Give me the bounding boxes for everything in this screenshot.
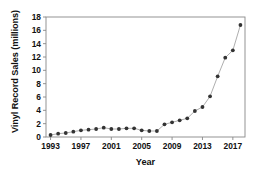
data-point — [185, 116, 189, 120]
plot-area: 024681012141618 199319972001200520092013… — [0, 0, 262, 177]
x-tick-label: 2005 — [132, 141, 151, 151]
data-point — [49, 133, 53, 137]
data-point — [140, 128, 144, 132]
data-point — [117, 127, 121, 131]
x-tick-label: 1997 — [72, 141, 91, 151]
y-tick-label: 6 — [36, 92, 41, 102]
data-point — [79, 128, 83, 132]
x-axis-ticks: 1993199720012005200920132017 — [41, 137, 242, 151]
data-point — [109, 127, 113, 131]
data-point — [147, 129, 151, 133]
data-point — [170, 120, 174, 124]
data-point — [87, 128, 91, 132]
y-tick-label: 8 — [36, 79, 41, 89]
data-point — [201, 105, 205, 109]
data-point — [239, 23, 243, 27]
y-tick-label: 14 — [32, 39, 42, 49]
data-point — [155, 129, 159, 133]
y-tick-label: 12 — [32, 52, 42, 62]
data-point — [132, 126, 136, 130]
x-tick-label: 2009 — [163, 141, 182, 151]
x-tick-label: 2001 — [102, 141, 121, 151]
data-point — [216, 74, 220, 78]
y-tick-label: 10 — [32, 65, 42, 75]
data-point — [71, 130, 75, 134]
x-tick-label: 1993 — [41, 141, 60, 151]
y-tick-label: 2 — [36, 119, 41, 129]
y-tick-label: 16 — [32, 25, 42, 35]
chart-figure: Vinyl Record Sales (millions) Year 02468… — [0, 0, 262, 177]
data-point — [163, 122, 167, 126]
y-axis-ticks: 024681012141618 — [32, 12, 46, 142]
x-tick-label: 2013 — [193, 141, 212, 151]
data-point — [208, 94, 212, 98]
data-point — [178, 118, 182, 122]
y-tick-label: 18 — [32, 12, 42, 22]
data-point — [231, 48, 235, 52]
y-tick-label: 4 — [36, 105, 41, 115]
data-point — [94, 127, 98, 131]
plot-frame — [46, 17, 245, 137]
data-point — [125, 126, 129, 130]
data-point — [193, 109, 197, 113]
data-point — [223, 56, 227, 60]
data-point — [64, 131, 68, 135]
data-point — [102, 126, 106, 130]
x-tick-label: 2017 — [224, 141, 243, 151]
data-point — [56, 132, 60, 136]
